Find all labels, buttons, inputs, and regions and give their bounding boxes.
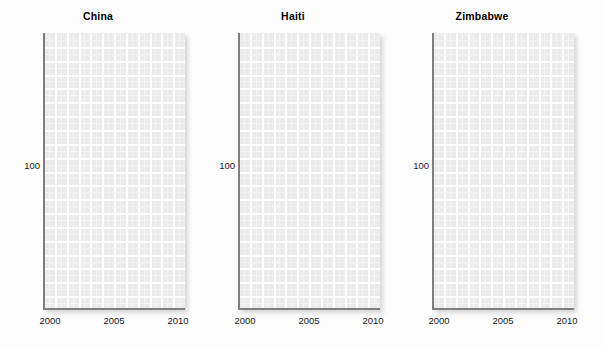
grid-line-horizontal-major [43,268,185,270]
grid-line-horizontal-major [432,158,574,160]
grid-line-horizontal-major [43,227,185,229]
grid-line-horizontal-major [43,199,185,201]
grid-line-horizontal-major [238,75,380,77]
y-axis-line-haiti [238,33,240,310]
grid-line-horizontal-major [432,116,574,118]
y-axis-tick-label-haiti: 100 [203,160,235,171]
grid-line-horizontal-major [43,255,185,257]
grid-line-horizontal-major [238,241,380,243]
grid-line-horizontal-major [238,172,380,174]
grid-line-horizontal-major [238,102,380,104]
grid-line-horizontal-major [43,47,185,49]
grid-line-horizontal-major [43,102,185,104]
grid-line-horizontal-major [43,88,185,90]
grid-line-horizontal-major [432,255,574,257]
x-axis-tick-label-2005-haiti: 2005 [298,315,319,326]
grid-line-horizontal-major [43,158,185,160]
grid-line-horizontal-major [238,268,380,270]
grid-line-horizontal-major [43,172,185,174]
grid-line-horizontal-major [432,88,574,90]
x-axis-tick-label-2000-haiti: 2000 [234,315,255,326]
x-axis-tick-label-2005-china: 2005 [103,315,124,326]
facet-panel-zimbabwe: Zimbabwe 100 2000 2005 2010 [389,0,604,348]
x-axis-tick-label-2010-china: 2010 [167,315,188,326]
grid-line-horizontal-major [43,144,185,146]
grid-line-horizontal-major [43,116,185,118]
x-axis-line-haiti [238,308,380,310]
grid-line-horizontal-major [43,296,185,298]
grid-line-horizontal-major [43,282,185,284]
y-axis-tick-label-zimbabwe: 100 [397,160,429,171]
grid-line-horizontal-major [43,213,185,215]
y-axis-tick-label-china: 100 [8,160,40,171]
x-axis-tick-label-2000-china: 2000 [39,315,60,326]
grid-lines-zimbabwe [432,33,574,310]
grid-line-horizontal-major [238,144,380,146]
grid-line-horizontal-major [238,255,380,257]
grid-line-horizontal-major [238,296,380,298]
grid-line-horizontal-major [432,130,574,132]
panel-background-china [43,33,185,310]
grid-lines-china [43,33,185,310]
grid-line-horizontal-major [432,268,574,270]
panel-background-zimbabwe [432,33,574,310]
grid-line-horizontal-major [238,282,380,284]
grid-line-horizontal-major [432,75,574,77]
grid-line-horizontal-major [43,61,185,63]
grid-line-horizontal-major [43,241,185,243]
grid-line-horizontal-major [432,144,574,146]
grid-line-horizontal-major [432,282,574,284]
grid-line-horizontal-major [432,102,574,104]
grid-line-horizontal-major [432,47,574,49]
grid-line-horizontal-major [432,227,574,229]
grid-line-horizontal-major [238,213,380,215]
plot-area-china [43,33,185,310]
x-axis-line-china [43,308,185,310]
x-axis-tick-label-2000-zimbabwe: 2000 [428,315,449,326]
grid-line-horizontal-major [43,185,185,187]
facet-panel-haiti: Haiti 100 2000 2005 2010 [195,0,391,348]
grid-line-horizontal-major [238,116,380,118]
plot-area-haiti [238,33,380,310]
grid-line-horizontal-major [238,158,380,160]
grid-line-horizontal-major [432,172,574,174]
y-axis-line-china [43,33,45,310]
grid-line-horizontal-major [238,61,380,63]
grid-line-horizontal-major [432,185,574,187]
grid-line-horizontal-major [432,199,574,201]
grid-line-horizontal-major [432,213,574,215]
grid-lines-haiti [238,33,380,310]
x-axis-tick-label-2010-haiti: 2010 [362,315,383,326]
facet-panel-china: China 100 2000 2005 2010 [0,0,196,348]
grid-line-horizontal-major [238,88,380,90]
plot-area-zimbabwe [432,33,574,310]
grid-line-horizontal-major [238,199,380,201]
panel-title-zimbabwe: Zimbabwe [389,10,575,22]
x-axis-line-zimbabwe [432,308,574,310]
grid-line-horizontal-major [432,241,574,243]
x-axis-tick-label-2005-zimbabwe: 2005 [492,315,513,326]
panel-title-china: China [0,10,196,22]
grid-line-horizontal-major [238,227,380,229]
grid-line-horizontal-major [43,130,185,132]
x-axis-tick-label-2010-zimbabwe: 2010 [556,315,577,326]
grid-line-horizontal-major [238,130,380,132]
grid-line-horizontal-major [432,61,574,63]
grid-line-horizontal-major [238,185,380,187]
panel-background-haiti [238,33,380,310]
grid-line-horizontal-major [43,75,185,77]
panel-title-haiti: Haiti [195,10,391,22]
grid-line-horizontal-major [238,47,380,49]
chart-figure: China 100 2000 2005 2010 Haiti 100 2000 … [0,0,604,348]
grid-line-horizontal-major [432,296,574,298]
y-axis-line-zimbabwe [432,33,434,310]
